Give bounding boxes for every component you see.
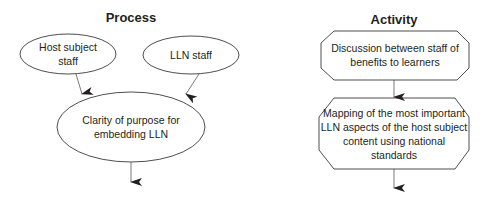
process-title: Process	[81, 10, 181, 25]
arrow-lln-to-clarity	[186, 74, 199, 94]
host-subject-staff-label: Host subject staff	[24, 38, 112, 70]
arrow-host-to-clarity	[76, 74, 82, 94]
clarity-label: Clarity of purpose for embedding LLN	[70, 110, 192, 144]
lln-staff-label: LLN staff	[147, 45, 235, 65]
diagram-shapes	[0, 0, 488, 201]
activity-title: Activity	[344, 12, 444, 27]
discussion-label: Discussion between staff of benefits to …	[324, 38, 466, 72]
mapping-label: Mapping of the most important LLN aspect…	[320, 110, 468, 158]
